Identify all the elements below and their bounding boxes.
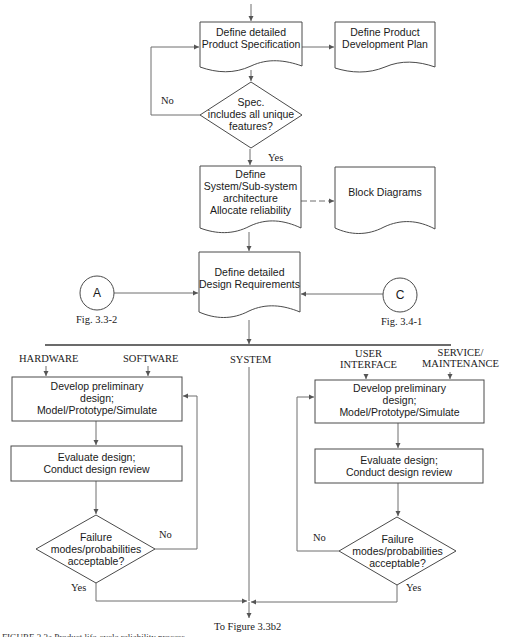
node-spec-decision: Spec. includes all unique features? bbox=[200, 96, 302, 132]
reliability-flowchart: Define detailed Product Specification De… bbox=[0, 0, 508, 637]
node-line: design; bbox=[383, 394, 417, 406]
edge-label-left-yes: Yes bbox=[71, 582, 86, 593]
node-line: Define detailed bbox=[216, 26, 286, 38]
node-line: Define detailed bbox=[214, 266, 284, 278]
node-line: Spec. bbox=[238, 96, 265, 108]
connector-c-letter: C bbox=[383, 288, 417, 302]
edge-label-spec-yes: Yes bbox=[268, 152, 283, 163]
branch-label-system: SYSTEM bbox=[230, 354, 271, 365]
branch-line: HARDWARE bbox=[19, 353, 79, 364]
node-define-development-plan: Define Product Development Plan bbox=[335, 26, 435, 50]
branch-label-software: SOFTWARE bbox=[123, 353, 178, 364]
node-left-develop-design: Develop preliminary design; Model/Protot… bbox=[12, 380, 182, 416]
node-right-develop-design: Develop preliminary design; Model/Protot… bbox=[315, 382, 484, 418]
node-line: Allocate reliability bbox=[210, 204, 291, 216]
branch-line: MAINTENANCE bbox=[422, 358, 499, 369]
node-line: Develop preliminary bbox=[353, 382, 446, 394]
node-line: Model/Prototype/Simulate bbox=[339, 406, 459, 418]
connector-a-letter: A bbox=[80, 286, 114, 300]
connector-c-reference: Fig. 3.4-1 bbox=[381, 316, 422, 327]
edge-label-right-no: No bbox=[313, 532, 326, 543]
branch-label-service-maintenance: SERVICE/ MAINTENANCE bbox=[422, 347, 499, 369]
node-line: Model/Prototype/Simulate bbox=[37, 404, 157, 416]
node-line: modes/probabilities bbox=[352, 545, 442, 557]
figure-caption: FIGURE 3.3a Product life-cycle reliabili… bbox=[2, 631, 185, 637]
node-line: Evaluate design; bbox=[360, 454, 438, 466]
branch-line: USER bbox=[340, 348, 397, 359]
node-line: acceptable? bbox=[68, 555, 125, 567]
node-line: System/Sub-system bbox=[204, 180, 297, 192]
branch-label-hardware: HARDWARE bbox=[19, 353, 79, 364]
node-line: Define Product bbox=[350, 26, 419, 38]
node-line: includes all unique bbox=[208, 108, 294, 120]
node-right-evaluate-design: Evaluate design; Conduct design review bbox=[315, 454, 483, 478]
node-line: acceptable? bbox=[369, 557, 426, 569]
node-line: Design Requirements bbox=[199, 278, 300, 290]
edge-label-spec-no: No bbox=[161, 95, 174, 106]
node-line: Define bbox=[235, 168, 265, 180]
node-line: Failure bbox=[381, 533, 413, 545]
edge-label-left-no: No bbox=[159, 529, 172, 540]
node-line: Develop preliminary bbox=[51, 380, 144, 392]
node-left-failure-decision: Failure modes/probabilities acceptable? bbox=[36, 531, 156, 567]
node-line: Block Diagrams bbox=[348, 186, 422, 198]
node-define-architecture: Define System/Sub-system architecture Al… bbox=[200, 168, 301, 216]
node-block-diagrams: Block Diagrams bbox=[335, 186, 435, 198]
connector-a-reference: Fig. 3.3-2 bbox=[76, 314, 117, 325]
branch-label-user-interface: USER INTERFACE bbox=[340, 348, 397, 370]
node-line: Product Specification bbox=[202, 38, 301, 50]
block-diagrams-shape bbox=[335, 167, 435, 234]
node-line: Conduct design review bbox=[346, 466, 452, 478]
node-line: design; bbox=[80, 392, 114, 404]
node-line: Conduct design review bbox=[43, 463, 149, 475]
branch-line: SYSTEM bbox=[230, 354, 271, 365]
branch-line: SOFTWARE bbox=[123, 353, 178, 364]
node-line: architecture bbox=[223, 192, 278, 204]
node-right-failure-decision: Failure modes/probabilities acceptable? bbox=[338, 533, 457, 569]
output-label: To Figure 3.3b2 bbox=[214, 621, 281, 632]
node-line: Development Plan bbox=[342, 38, 428, 50]
node-line: features? bbox=[229, 120, 273, 132]
node-line: modes/probabilities bbox=[51, 543, 141, 555]
node-define-design-requirements: Define detailed Design Requirements bbox=[199, 266, 300, 290]
branch-line: INTERFACE bbox=[340, 359, 397, 370]
branch-line: SERVICE/ bbox=[422, 347, 499, 358]
node-define-product-specification: Define detailed Product Specification bbox=[200, 26, 302, 50]
edge-label-right-yes: Yes bbox=[406, 582, 421, 593]
node-left-evaluate-design: Evaluate design; Conduct design review bbox=[11, 451, 182, 475]
node-line: Evaluate design; bbox=[58, 451, 136, 463]
node-line: Failure bbox=[80, 531, 112, 543]
